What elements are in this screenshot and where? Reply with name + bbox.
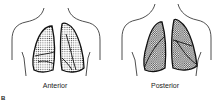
posterior-lung-illustration [110, 0, 221, 106]
posterior-view: Posterior [110, 0, 220, 106]
anterior-view: Anterior B [0, 0, 110, 106]
anterior-label: Anterior [0, 82, 110, 89]
posterior-label: Posterior [110, 82, 220, 89]
anterior-lung-illustration [0, 0, 110, 106]
panel-label: B [1, 95, 5, 101]
